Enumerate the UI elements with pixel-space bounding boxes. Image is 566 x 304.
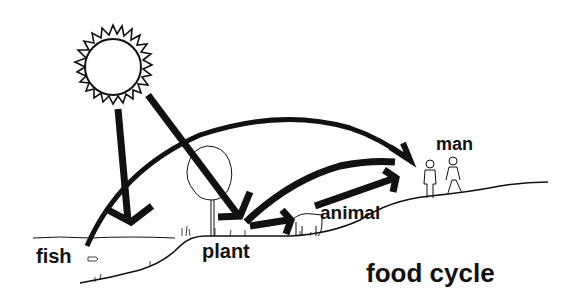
label-animal: animal [320,203,380,222]
label-fish: fish [36,246,72,266]
diagram-title: food cycle [366,260,495,286]
fish-icon [88,257,98,261]
flow-arrows [87,95,410,246]
arrow-sun-to-water [118,109,128,221]
food-cycle-diagram: fish plant animal man food cycle [0,0,566,304]
walking-man-icon [446,157,462,193]
sun-icon [75,25,152,104]
standing-man-icon [424,160,436,198]
arrow-fish-to-man [87,119,410,246]
arrow-plant-to-animal [250,220,288,226]
label-man: man [436,135,473,153]
label-plant: plant [202,241,250,261]
water-surface [33,237,175,238]
